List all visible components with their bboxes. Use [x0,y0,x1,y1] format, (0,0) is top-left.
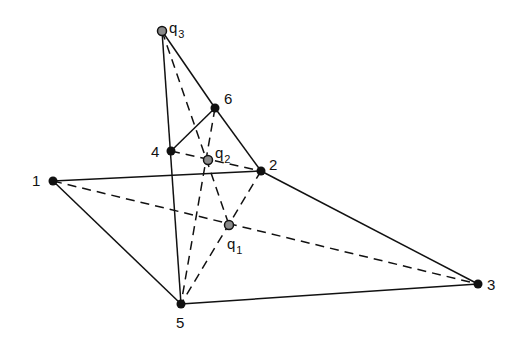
solid-edge-1-5 [53,181,181,304]
points [49,27,483,309]
vertex-1-icon [49,177,58,186]
label-q3: q3 [169,19,184,40]
query-point-q3-icon [158,27,167,36]
solid-edge-1-2 [53,171,261,181]
dashed-edge-1-3 [53,181,478,284]
triangulation-diagram: 123456q1q2q3 [0,0,519,341]
vertex-2-icon [257,167,266,176]
dashed-edges [53,31,478,304]
solid-edge-q3-6 [162,31,215,108]
label-5: 5 [176,314,184,331]
dashed-edge-2-5 [181,171,261,304]
vertex-4-icon [167,147,176,156]
label-3: 3 [487,276,495,293]
query-point-q1-icon [225,221,234,230]
solid-edge-q3-5 [162,31,181,304]
label-4: 4 [151,143,159,160]
vertex-5-icon [177,300,186,309]
solid-edge-2-3 [261,171,478,284]
point-labels: 123456q1q2q3 [32,19,495,331]
vertex-3-icon [474,280,483,289]
solid-edges [53,31,478,304]
query-point-q2-icon [204,156,213,165]
solid-edge-5-3 [181,284,478,304]
label-2: 2 [269,156,277,173]
label-q1: q1 [227,235,242,256]
label-1: 1 [32,172,40,189]
label-6: 6 [224,90,232,107]
vertex-6-icon [211,104,220,113]
